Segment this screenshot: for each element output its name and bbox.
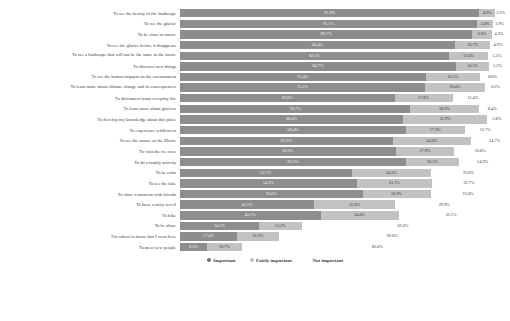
chart-row: To see the human impacts on the environm… (4, 72, 506, 82)
category-label: To see the glacier (4, 21, 180, 26)
bar-value-label: 17.4% (203, 234, 214, 238)
bar-segment-fairly-important: 24.0% (321, 211, 399, 219)
bar-segment-important: 75.4% (180, 73, 426, 81)
bar-track: 43.1%24.0%32.1% (180, 211, 506, 219)
bar-segment-fairly-important: 12.9% (237, 232, 279, 240)
chart-row: To experience wilderness69.4%17.9%12.7% (4, 125, 506, 135)
bar-value-label: 3.3% (496, 11, 505, 15)
bar-value-label: 4.3% (495, 32, 504, 36)
legend-swatch-icon (306, 258, 310, 262)
chart-row: To disconnect from everyday life69.8%17.… (4, 93, 506, 103)
bar-segment-important: 91.1% (180, 20, 477, 28)
chart-rows: To see the beauty of the landscape91.8%4… (4, 8, 506, 253)
bar-value-label: 8.3% (189, 245, 198, 249)
bar-segment-fairly-important: 16.5% (426, 73, 480, 81)
bar-segment-not-important: 4.3% (492, 30, 506, 38)
bar-value-label: 75.1% (297, 85, 308, 89)
chart-row: To meet new people8.3%10.7%83.0% (4, 242, 506, 252)
bar-value-label: 4.9% (483, 11, 492, 15)
chart-row: To be alone24.2%13.2%62.0% (4, 221, 506, 231)
bar-segment-not-important: 6.5% (485, 83, 506, 91)
bar-segment-not-important: 8.0% (480, 73, 506, 81)
bar-segment-not-important: 32.1% (399, 211, 504, 219)
bar-value-label: 62.0% (397, 224, 408, 228)
chart-row: To see the beauty of the landscape91.8%4… (4, 8, 506, 18)
bar-segment-not-important: 23.0% (431, 190, 506, 198)
bar-value-label: 23.1% (389, 181, 400, 185)
legend-item-important[interactable]: Important (207, 258, 236, 263)
bar-segment-not-important: 62.0% (302, 222, 504, 230)
bar-value-label: 70.7% (290, 107, 301, 111)
category-label: To see a landscape that will not be the … (4, 53, 180, 58)
category-label: To see the human impacts on the environm… (4, 74, 180, 79)
bar-segment-not-important: 8.4% (479, 105, 506, 113)
category-label: To do a family activity (4, 160, 180, 165)
bar-segment-fairly-important: 20.9% (410, 105, 478, 113)
bar-segment-important: 68.4% (180, 115, 403, 123)
bar-value-label: 16.3% (427, 160, 438, 164)
bar-segment-fairly-important: 24.0% (393, 137, 471, 145)
bar-value-label: 5.5% (493, 54, 502, 58)
bar-value-label: 6.5% (491, 85, 500, 89)
bar-segment-important: 56.0% (180, 190, 363, 198)
bar-value-label: 17.9% (430, 128, 441, 132)
chart-row: To see the lake54.2%23.1%22.7% (4, 178, 506, 188)
bar-value-label: 24.2% (214, 224, 225, 228)
bar-segment-not-important: 4.9% (490, 41, 506, 49)
bar-value-label: 54.2% (263, 181, 274, 185)
bar-value-label: 4.9% (494, 43, 503, 47)
bar-segment-not-important: 5.5% (488, 52, 506, 60)
category-label: To discover new things (4, 64, 180, 69)
bar-value-label: 10.7% (467, 43, 478, 47)
legend-label: Fairly important (256, 258, 292, 263)
bar-value-label: 91.8% (324, 11, 335, 15)
legend-label: Important (213, 258, 235, 263)
bar-segment-important: 8.3% (180, 243, 207, 251)
bar-track: 91.8%4.9%3.3% (180, 9, 506, 17)
bar-segment-not-important: 5.8% (487, 115, 506, 123)
bar-value-label: 68.4% (286, 117, 297, 121)
bar-segment-important: 69.4% (180, 126, 406, 134)
bar-track: 8.3%10.7%83.0% (180, 243, 506, 251)
bar-segment-fairly-important: 24.3% (352, 169, 431, 177)
legend-swatch-icon (250, 258, 254, 262)
bar-value-label: 24.0% (426, 139, 437, 143)
bar-segment-important: 54.2% (180, 179, 357, 187)
bar-value-label: 8.4% (488, 107, 497, 111)
bar-value-label: 20.9% (391, 192, 402, 196)
bar-value-label: 16.0% (475, 149, 486, 153)
bar-track: 91.1%5.0%3.9% (180, 20, 506, 28)
category-label: To see the lake (4, 181, 180, 186)
stacked-bar-chart: To see the beauty of the landscape91.8%4… (0, 0, 510, 321)
bar-value-label: 84.7% (313, 64, 324, 68)
category-label: To disconnect from everyday life (4, 96, 180, 101)
bar-segment-important: 91.8% (180, 9, 479, 17)
bar-track: 84.7%10.1%5.2% (180, 62, 506, 70)
bar-segment-not-important: 23.0% (431, 169, 506, 177)
bar-segment-not-important: 69.6% (279, 232, 506, 240)
category-label: To see the source of the Rhone (4, 138, 180, 143)
bar-value-label: 3.9% (495, 22, 504, 26)
bar-segment-important: 82.5% (180, 52, 449, 60)
bar-value-label: 10.1% (467, 64, 478, 68)
bar-segment-fairly-important: 23.1% (357, 179, 432, 187)
bar-segment-fairly-important: 4.9% (479, 9, 495, 17)
chart-row: To discover new things84.7%10.1%5.2% (4, 61, 506, 71)
bar-segment-fairly-important: 16.3% (406, 158, 459, 166)
chart-row: To share a moment with friends56.0%20.9%… (4, 189, 506, 199)
bar-track: 24.2%13.2%62.0% (180, 222, 506, 230)
bar-value-label: 23.0% (463, 171, 474, 175)
bar-value-label: 24.0% (354, 213, 365, 217)
bar-segment-fairly-important: 17.9% (396, 147, 454, 155)
legend-item-fairly-important[interactable]: Fairly important (250, 258, 292, 263)
bar-value-label: 69.3% (287, 160, 298, 164)
bar-segment-not-important: 14.7% (471, 137, 510, 145)
bar-track: 17.4%12.9%69.6% (180, 232, 506, 240)
bar-segment-not-important: 22.7% (432, 179, 506, 187)
bar-value-label: 56.0% (266, 192, 277, 196)
category-label: To hike (4, 213, 180, 218)
legend-item-not-important[interactable]: Not important (306, 258, 343, 263)
bar-segment-important: 43.1% (180, 211, 321, 219)
bar-value-label: 52.7% (260, 171, 271, 175)
chart-row: To develop my knowledge about this place… (4, 114, 506, 124)
